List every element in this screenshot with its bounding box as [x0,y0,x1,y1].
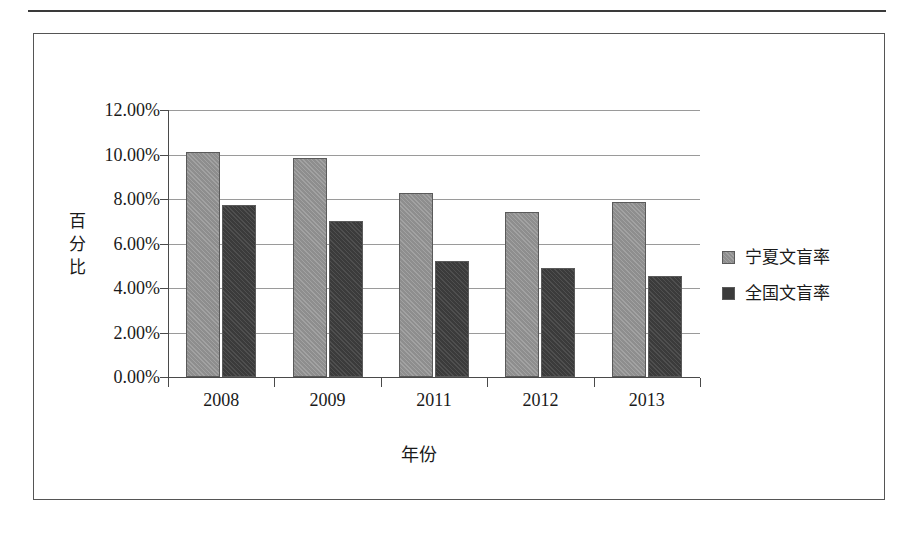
bar [648,276,682,377]
bar-group [168,110,274,377]
bar-series-layer [168,110,700,377]
x-axis-tick [700,378,701,387]
x-axis-tick-label: 2012 [495,390,585,410]
light-gray-swatch [722,251,735,264]
x-axis-tick [487,378,488,387]
bar-group [487,110,593,377]
bar [399,193,433,377]
y-axis-tick-label: 0.00% [74,368,160,386]
bar-group [594,110,700,377]
y-axis-tick-label: 6.00% [74,235,160,253]
x-axis-tick [381,378,382,387]
bar [186,152,220,377]
y-axis-tick-label: 10.00% [74,146,160,164]
x-axis-title-text: 年份 [401,440,437,466]
bar [293,158,327,377]
bar-group [381,110,487,377]
x-axis-tick-label: 2009 [283,390,373,410]
x-axis-tick-label: 2011 [389,390,479,410]
x-axis-tick [594,378,595,387]
bar [541,268,575,377]
x-axis-tick [168,378,169,387]
bar [435,261,469,377]
legend-item-label: 全国文盲率 [745,284,830,302]
x-axis-tick-label: 2008 [176,390,266,410]
legend-item: 全国文盲率 [722,284,882,302]
y-axis-tick-label: 2.00% [74,324,160,342]
bar-group [274,110,380,377]
bar [612,202,646,377]
y-axis-tick-label: 4.00% [74,279,160,297]
bar [329,221,363,377]
legend-item: 宁夏文盲率 [722,248,882,266]
legend-item-label: 宁夏文盲率 [745,248,830,266]
bar [222,205,256,377]
bar [505,212,539,377]
x-axis-tick [274,378,275,387]
x-axis-tick-label: 2013 [602,390,692,410]
chart-legend: 宁夏文盲率全国文盲率 [722,248,882,320]
dark-gray-swatch [722,287,735,300]
x-axis-title: 年份 [0,440,914,466]
y-axis-tick-label: 12.00% [74,101,160,119]
gridline [168,377,700,378]
y-axis-tick-label: 8.00% [74,190,160,208]
